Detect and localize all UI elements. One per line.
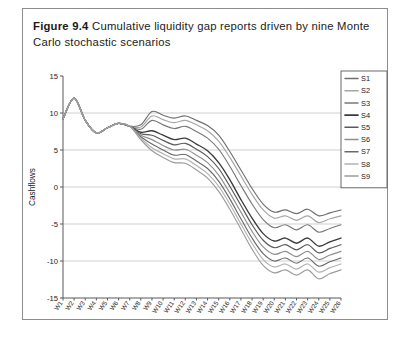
series-line-s7	[63, 98, 341, 266]
chart-region: 151050-5-10-15W1W2W3W4W5W6W7W8W9W10W11W1…	[23, 59, 389, 321]
figure-caption: Figure 9.4 Cumulative liquidity gap repo…	[33, 18, 381, 50]
x-tick-label: W10	[151, 299, 165, 314]
line-chart: 151050-5-10-15W1W2W3W4W5W6W7W8W9W10W11W1…	[23, 59, 389, 321]
x-tick-label: W23	[295, 299, 309, 314]
x-tick-label: W15	[206, 299, 220, 314]
x-tick-label: W21	[273, 299, 287, 314]
y-axis-title: Cashflows	[28, 168, 37, 206]
series-line-s9	[63, 98, 341, 279]
x-tick-label: W20	[262, 299, 276, 314]
x-tick-label: W24	[306, 299, 320, 314]
x-tick-label: W25	[317, 299, 331, 314]
y-tick-label: 10	[50, 109, 58, 118]
x-tick-label: W3	[75, 299, 86, 311]
x-tick-label: W6	[108, 299, 119, 311]
series-line-s8	[63, 98, 341, 272]
x-tick-label: W8	[130, 299, 141, 311]
x-tick-label: W22	[284, 299, 298, 314]
x-tick-label: W19	[251, 299, 265, 314]
x-tick-label: W26	[329, 299, 343, 314]
x-tick-label: W2	[64, 299, 75, 311]
series-line-s1	[63, 98, 341, 216]
figure-number: Figure 9.4	[33, 20, 89, 32]
legend-label-s8[interactable]: S8	[361, 160, 370, 169]
x-tick-label: W17	[228, 299, 242, 314]
series-line-s5	[63, 98, 341, 253]
series-line-s2	[63, 98, 341, 222]
x-tick-label: W18	[240, 299, 254, 314]
x-tick-label: W7	[119, 299, 130, 311]
legend-label-s6[interactable]: S6	[361, 135, 370, 144]
x-tick-label: W4	[86, 299, 97, 311]
x-tick-label: W16	[217, 299, 231, 314]
y-tick-label: -5	[51, 220, 58, 229]
series-line-s3	[63, 98, 341, 232]
y-tick-label: 5	[54, 146, 58, 155]
x-tick-label: W13	[184, 299, 198, 314]
legend-label-s5[interactable]: S5	[361, 123, 370, 132]
legend-label-s3[interactable]: S3	[361, 99, 370, 108]
legend-label-s7[interactable]: S7	[361, 147, 370, 156]
legend-label-s1[interactable]: S1	[361, 74, 370, 83]
x-tick-label: W12	[173, 299, 187, 314]
y-tick-label: -10	[47, 257, 58, 266]
y-tick-label: 15	[50, 72, 58, 81]
legend-label-s9[interactable]: S9	[361, 172, 370, 181]
figure-frame: Figure 9.4 Cumulative liquidity gap repo…	[22, 8, 388, 320]
x-tick-label: W14	[195, 299, 209, 314]
legend-label-s4[interactable]: S4	[361, 111, 370, 120]
y-tick-label: 0	[54, 183, 58, 192]
x-tick-label: W5	[97, 299, 108, 311]
legend-label-s2[interactable]: S2	[361, 86, 370, 95]
